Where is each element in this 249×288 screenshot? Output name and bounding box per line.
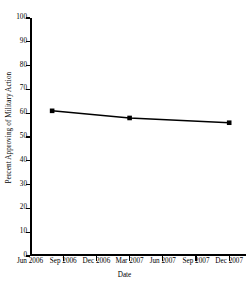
y-axis-tick-labels: 0102030405060708090100: [11, 0, 27, 288]
y-axis-tick-mark: [26, 160, 31, 161]
y-axis-tick-mark: [26, 113, 31, 114]
y-axis-tick-mark: [26, 65, 31, 66]
data-point-marker: [227, 120, 232, 125]
series-line: [52, 111, 229, 123]
y-axis-tick-mark: [26, 17, 31, 18]
x-axis-tick-label: Dec 2007: [199, 258, 249, 265]
y-axis-tick-mark: [26, 184, 31, 185]
plot-area: [30, 18, 246, 256]
x-axis-title: Date: [0, 272, 249, 279]
y-axis-tick-mark: [26, 136, 31, 137]
data-series-line: [30, 18, 246, 256]
y-axis-tick-mark: [26, 89, 31, 90]
y-axis-tick-mark: [26, 41, 31, 42]
data-point-marker: [50, 109, 55, 114]
data-point-marker: [127, 116, 132, 121]
y-axis-tick-mark: [26, 208, 31, 209]
chart-figure: Percent Approving of Military Action 010…: [0, 0, 249, 288]
y-axis-tick-mark: [26, 232, 31, 233]
x-axis-tick-labels: Jun 2006Sep 2006Dec 2006Mar 2007Jun 2007…: [0, 258, 249, 270]
